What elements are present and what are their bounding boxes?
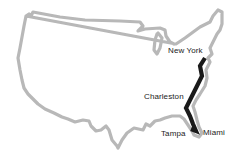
- label-miami: Miami: [203, 129, 225, 137]
- label-tampa: Tampa: [161, 130, 186, 138]
- label-new-york: New York: [168, 47, 203, 55]
- us-outline: [18, 10, 222, 148]
- label-charleston: Charleston: [144, 93, 184, 101]
